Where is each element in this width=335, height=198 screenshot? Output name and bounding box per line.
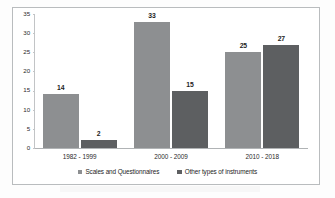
y-axis-tick-label: 0: [14, 145, 30, 151]
legend-swatch-icon: [78, 170, 83, 175]
bar-scales-questionnaires: [225, 52, 261, 148]
y-axis-tick-label: 35: [14, 11, 30, 17]
bar-other-instruments: [81, 140, 117, 148]
y-axis-tick-mark: [33, 52, 35, 53]
bar-value-label: 14: [41, 85, 81, 92]
y-axis-tick-mark: [33, 110, 35, 111]
y-axis-tick-mark: [33, 129, 35, 130]
bar-value-label: 33: [132, 13, 172, 20]
x-axis-line: [34, 148, 308, 149]
y-axis-tick-mark: [33, 71, 35, 72]
y-axis-tick-label: 25: [14, 49, 30, 55]
y-axis-tick-label: 30: [14, 30, 30, 36]
bar-value-label: 27: [261, 36, 301, 43]
y-axis-tick-label: 5: [14, 126, 30, 132]
bar-other-instruments: [263, 45, 299, 148]
y-axis-tick-mark: [33, 14, 35, 15]
bar-value-label: 15: [170, 82, 210, 89]
legend-label: Scales and Questionnaires: [85, 169, 159, 175]
y-axis-tick-mark: [33, 91, 35, 92]
y-axis-tick-label: 20: [14, 68, 30, 74]
bar-chart-figure: 05101520253035 1421982 - 199933152000 - …: [0, 0, 335, 198]
y-axis-tick-label: 10: [14, 107, 30, 113]
y-axis-tick-mark: [33, 148, 35, 149]
legend-item-other-instruments[interactable]: Other types of instruments: [177, 169, 257, 175]
y-axis-tick-label: 15: [14, 87, 30, 93]
x-axis-category-label: 2010 - 2018: [207, 154, 317, 160]
legend-label: Other types of instruments: [185, 169, 257, 175]
legend-swatch-icon: [177, 170, 182, 175]
bar-scales-questionnaires: [134, 22, 170, 148]
bar-scales-questionnaires: [43, 94, 79, 148]
y-axis-tick-mark: [33, 33, 35, 34]
bar-value-label: 25: [223, 43, 263, 50]
legend-item-scales-questionnaires[interactable]: Scales and Questionnaires: [78, 169, 159, 175]
bar-value-label: 2: [79, 131, 119, 138]
chart-legend: Scales and QuestionnairesOther types of …: [0, 169, 335, 175]
bar-other-instruments: [172, 91, 208, 148]
